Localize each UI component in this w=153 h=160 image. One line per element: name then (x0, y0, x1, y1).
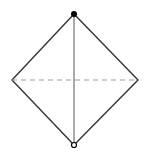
top-vertex-dot (71, 11, 77, 17)
bottom-vertex-dot (72, 143, 77, 148)
diagram-canvas (0, 0, 153, 160)
rhombus-diagram (0, 0, 153, 160)
